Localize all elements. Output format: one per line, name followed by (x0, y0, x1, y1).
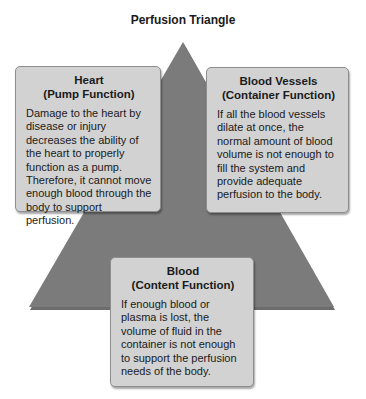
blood-heading-title: Blood (121, 264, 245, 278)
heart-pump-function-box: Heart (Pump Function) Damage to the hear… (15, 66, 161, 212)
blood-heading: Blood (Content Function) (121, 264, 245, 292)
vessels-description: If all the blood vessels dilate at once,… (217, 108, 340, 202)
heart-heading-subtitle: (Pump Function) (26, 87, 152, 101)
vessels-heading: Blood Vessels (Container Function) (217, 74, 340, 102)
heart-description: Damage to the heart by disease or injury… (26, 107, 152, 228)
blood-description: If enough blood or plasma is lost, the v… (121, 298, 245, 378)
blood-heading-subtitle: (Content Function) (121, 278, 245, 292)
heart-heading: Heart (Pump Function) (26, 73, 152, 101)
vessels-heading-title: Blood Vessels (217, 74, 340, 88)
blood-vessels-container-function-box: Blood Vessels (Container Function) If al… (206, 67, 349, 213)
blood-content-function-box: Blood (Content Function) If enough blood… (110, 257, 254, 387)
vessels-heading-subtitle: (Container Function) (217, 88, 340, 102)
heart-heading-title: Heart (26, 73, 152, 87)
